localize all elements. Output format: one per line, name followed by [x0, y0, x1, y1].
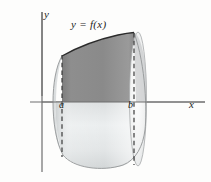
y-axis-label: y [44, 9, 49, 20]
solid-of-revolution-figure: y x a b y = f(x) [0, 0, 211, 182]
tick-label-b: b [128, 100, 133, 110]
tick-label-a: a [59, 100, 64, 110]
region-under-curve [62, 33, 136, 103]
curve-label: y = f(x) [71, 19, 106, 30]
x-axis-label: x [189, 99, 194, 110]
